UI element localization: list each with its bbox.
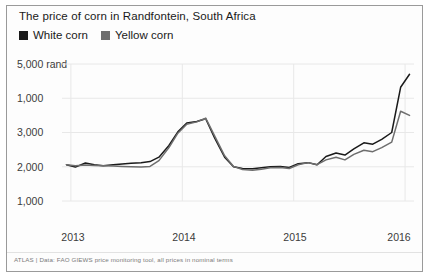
x-axis-tick-label: 2016 [387,231,410,243]
y-axis-tick-label: 5,000 rand [17,58,67,70]
gridlines [62,64,414,201]
footer-divider [7,252,422,253]
chart-canvas [62,64,414,201]
x-axis-tick-label: 2014 [172,231,195,243]
chart-source-note: ATLAS | Data: FAO GIEWS price monitoring… [14,256,233,263]
y-axis-tick-label: 3,000 [17,126,43,138]
x-axis-tick-label: 2015 [283,231,306,243]
plot-area [62,64,414,201]
x-axis-tick-label: 2013 [61,231,84,243]
y-axis-tick-label: 1,000 [17,195,43,207]
y-axis-tick-label: 2,000 [17,161,43,173]
series-line-yellow-corn [66,111,409,170]
y-axis-tick-label: 1,000 [17,92,43,104]
data-series [66,74,409,170]
chart-figure: The price of corn in Randfontein, South … [0,0,429,278]
series-line-white-corn [66,74,409,169]
